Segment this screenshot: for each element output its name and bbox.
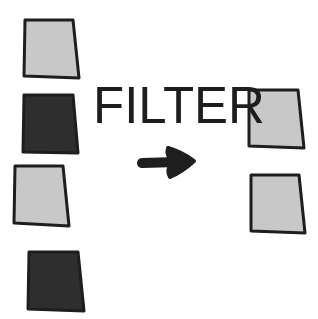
input-item-light-2 (14, 166, 69, 226)
input-item-dark-1 (23, 95, 78, 153)
output-item-light-2 (251, 175, 305, 233)
input-item-dark-2 (28, 252, 84, 311)
diagram-canvas (0, 0, 318, 319)
input-item-light-1 (24, 20, 79, 78)
arrow-right-icon (142, 148, 194, 177)
filter-label: FILTER (93, 80, 265, 131)
input-items (14, 20, 84, 311)
